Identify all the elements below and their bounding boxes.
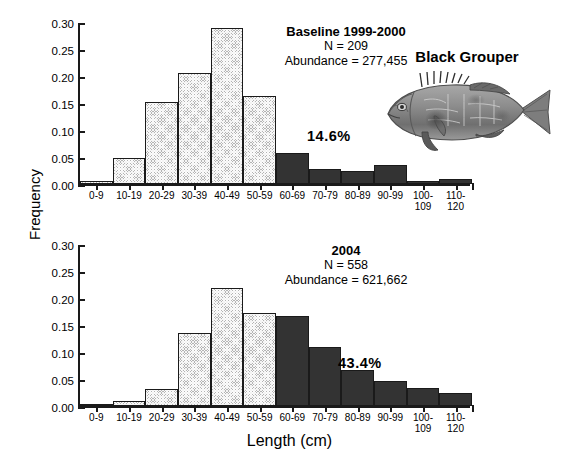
x-tick [423,183,425,190]
y-tick-label: 0.30 [52,18,74,30]
x-tick [358,405,360,412]
fish-illustration-icon [378,70,556,156]
histogram-bar [439,393,472,407]
histogram-bar [276,316,309,406]
x-tick [260,183,262,190]
x-tick-label: 100- 109 [413,412,433,434]
x-tick [292,183,294,190]
x-tick [162,405,164,412]
x-tick [325,405,327,412]
x-tick [456,183,458,190]
fish-illustration-block: Black Grouper [372,48,562,160]
x-tick-label: 20-29 [149,190,175,201]
y-tick [78,272,85,274]
x-tick [325,183,327,190]
y-tick-label: 0.15 [52,321,74,333]
x-tick-label: 40-49 [214,412,240,423]
y-tick [78,245,85,247]
histogram-bar [243,313,276,406]
annotation-2004: 2004 N = 558 Abundance = 621,662 [228,243,464,288]
y-tick [78,353,85,355]
x-tick-label: 30-39 [182,412,208,423]
histogram-bar [309,169,342,184]
x-tick [358,183,360,190]
y-tick-label: 0.05 [52,153,74,165]
histogram-bar [374,165,407,184]
histogram-bar [276,153,309,184]
y-tick-label: 0.30 [52,240,74,252]
figure-length-frequency: Frequency 0.000.050.100.150.200.250.300-… [0,0,567,464]
histogram-bar [145,102,178,184]
x-tick-label: 50-59 [247,190,273,201]
y-tick [78,158,85,160]
y-tick [78,77,85,79]
x-tick [227,405,229,412]
x-tick-label: 40-49 [214,190,240,201]
y-tick-label: 0.00 [52,402,74,414]
x-tick-label: 0-9 [89,412,103,423]
y-axis-title: Frequency [26,145,43,265]
panel-title-baseline: Baseline 1999-2000 [228,24,464,39]
x-axis-title: Length (cm) [0,432,567,450]
x-tick [162,183,164,190]
y-tick-label: 0.10 [52,348,74,360]
fish-caption: Black Grouper [372,48,562,65]
x-tick [129,183,131,190]
y-tick-label: 0.25 [52,267,74,279]
x-tick [390,183,392,190]
x-tick-label: 70-79 [312,190,338,201]
y-tick-label: 0.00 [52,180,74,192]
x-tick-label: 80-89 [345,412,371,423]
x-tick [260,405,262,412]
x-tick-label: 50-59 [247,412,273,423]
percent-label-baseline: 14.6% [307,128,351,144]
x-tick-label: 10-19 [116,412,142,423]
y-tick [78,407,85,409]
panel-abundance-2004: Abundance = 621,662 [228,273,464,288]
x-tick-label: 60-69 [280,190,306,201]
panel-title-2004: 2004 [228,243,464,258]
x-tick-label: 80-89 [345,190,371,201]
y-tick-label: 0.15 [52,99,74,111]
histogram-bar [178,333,211,406]
histogram-bar [243,96,276,184]
y-tick-label: 0.20 [52,294,74,306]
x-tick [292,405,294,412]
histogram-bar [145,389,178,406]
x-tick-label: 10-19 [116,190,142,201]
x-axis-end-tick [472,405,474,412]
y-tick [78,131,85,133]
histogram-bar [211,288,244,406]
histogram-bar [341,370,374,406]
y-tick [78,380,85,382]
histogram-bar [309,347,342,406]
x-tick [456,405,458,412]
x-tick [194,405,196,412]
histogram-bar [341,171,374,185]
panel-n-2004: N = 558 [228,258,464,273]
y-tick-label: 0.25 [52,45,74,57]
x-tick-label: 110- 120 [446,190,465,212]
x-tick-label: 20-29 [149,412,175,423]
x-tick-label: 90-99 [378,412,404,423]
y-tick [78,185,85,187]
y-tick-label: 0.05 [52,375,74,387]
histogram-bar [407,388,440,406]
x-tick-label: 100- 109 [413,190,433,212]
x-tick [227,183,229,190]
x-tick [423,405,425,412]
y-tick [78,23,85,25]
x-axis-end-tick [472,183,474,190]
x-tick-label: 90-99 [378,190,404,201]
histogram-bar [113,158,146,184]
histogram-bar [178,73,211,184]
y-tick [78,50,85,52]
x-tick [129,405,131,412]
x-tick-label: 0-9 [89,190,103,201]
x-tick-label: 110- 120 [446,412,465,434]
x-tick-label: 70-79 [312,412,338,423]
histogram-bar [374,381,407,406]
x-tick [194,183,196,190]
x-tick [96,183,98,190]
percent-label-2004: 43.4% [338,355,382,371]
